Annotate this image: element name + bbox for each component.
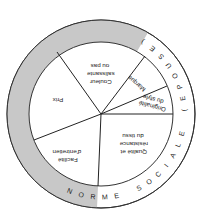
svg-text:Qualité et résistance: Qualité et résistance du tissu (118, 133, 148, 156)
pie-diagram: Qualité et résistance du tissu Originali… (0, 0, 200, 214)
ring-letter: R (90, 193, 96, 200)
segment-prix: Prix (52, 97, 64, 104)
svg-text:Facilité d'entretien: Facilité d'entretien (52, 149, 81, 164)
segment-qualite: Qualité et résistance du tissu (118, 133, 148, 156)
ring-letter: M (102, 193, 108, 200)
svg-text:Prix: Prix (52, 97, 64, 104)
segment-facilite: Facilité d'entretien (52, 149, 81, 164)
